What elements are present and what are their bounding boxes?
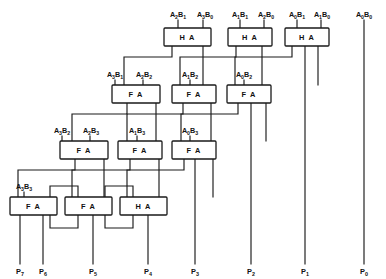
array-multiplier-diagram: H A H A H A F A F A F A [0, 0, 386, 279]
input-label-a2b1: A2B1 [170, 10, 186, 20]
adder-fa-r3-c1[interactable]: F A [65, 197, 112, 215]
adder-label: F A [242, 90, 257, 99]
input-label-a3b1: A3B1 [107, 70, 123, 80]
adder-label: F A [133, 146, 148, 155]
output-label-p7: P7 [16, 267, 24, 277]
adder-ha-r0-c2[interactable]: H A [285, 28, 329, 46]
input-label-a1b3: A1B3 [129, 126, 145, 136]
input-label-a3b0: A3B0 [197, 10, 213, 20]
input-label-a3b2: A3B2 [54, 126, 70, 136]
output-label-p2: P2 [247, 267, 255, 277]
output-label-p6: P6 [39, 267, 47, 277]
adder-label: F A [129, 90, 144, 99]
input-label-a3b3: A3B3 [16, 182, 32, 192]
input-label-a1b1: A1B1 [232, 10, 248, 20]
adder-ha-r0-c0[interactable]: H A [164, 28, 211, 46]
input-label-a2b2: A2B2 [136, 70, 152, 80]
diagram-canvas: H A H A H A F A F A F A [0, 0, 386, 279]
adder-fa-r2-c1[interactable]: F A [118, 141, 162, 159]
row2-to-row3-wires [18, 159, 213, 197]
output-label-p0: P0 [360, 267, 368, 277]
adder-fa-r3-c0[interactable]: F A [10, 197, 57, 215]
row1-to-row2-wires [72, 103, 266, 141]
row0-to-row1-wires [124, 46, 318, 85]
adder-ha-r3-c2[interactable]: H A [120, 197, 167, 215]
adder-fa-r1-c1[interactable]: F A [172, 85, 216, 103]
adder-label: F A [187, 146, 202, 155]
adder-label: F A [187, 90, 202, 99]
input-label-a2b3: A2B3 [83, 126, 99, 136]
output-labels: P7 P6 P5 P4 P3 P2 P1 P0 [16, 267, 368, 277]
adder-label: F A [81, 202, 96, 211]
input-label-a0b0: A0B0 [356, 10, 372, 20]
output-label-p1: P1 [301, 267, 309, 277]
adder-label: H A [242, 33, 258, 42]
adder-boxes: H A H A H A F A F A F A [10, 28, 329, 215]
input-label-a1b0: A1B0 [314, 10, 330, 20]
input-label-a1b2: A1B2 [182, 70, 198, 80]
adder-fa-r2-c2[interactable]: F A [172, 141, 216, 159]
adder-label: F A [26, 202, 41, 211]
adder-label: H A [299, 33, 315, 42]
adder-fa-r2-c0[interactable]: F A [60, 141, 108, 159]
adder-fa-r1-c0[interactable]: F A [112, 85, 160, 103]
input-label-a0b2: A0B2 [236, 70, 252, 80]
input-label-a0b3: A0B3 [182, 126, 198, 136]
adder-label: F A [77, 146, 92, 155]
output-label-p4: P4 [144, 267, 152, 277]
adder-ha-r0-c1[interactable]: H A [228, 28, 272, 46]
adder-fa-r1-c2[interactable]: F A [227, 85, 271, 103]
output-label-p5: P5 [89, 267, 97, 277]
adder-label: H A [180, 33, 196, 42]
output-label-p3: P3 [191, 267, 199, 277]
input-label-a2b0: A2B0 [258, 10, 274, 20]
adder-label: H A [136, 202, 152, 211]
input-label-a0b1: A0B1 [289, 10, 305, 20]
